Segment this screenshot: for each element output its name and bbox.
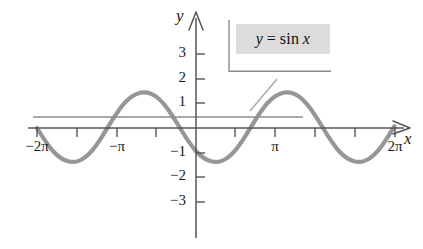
plot-canvas: [0, 0, 423, 249]
x-tick-marks: [37, 128, 395, 137]
equation-lhs: y: [256, 30, 263, 47]
x-tick-label-2pi: 2π: [375, 138, 415, 155]
y-tick-label-neg3: −3: [155, 192, 186, 209]
x-tick-label-pi: π: [259, 138, 291, 155]
equation-callout-label: y = sin x: [256, 30, 310, 48]
y-tick-label-1: 1: [160, 93, 186, 110]
y-tick-label-2: 2: [160, 69, 186, 86]
x-tick-label-negpi: −π: [97, 138, 137, 155]
y-tick-label-3: 3: [160, 44, 186, 61]
sine-graph-figure: y x 3 2 1 −1 −2 −3 −2π −π π 2π y = sin x: [0, 0, 423, 249]
y-tick-label-neg2: −2: [155, 167, 186, 184]
equation-operator: =: [267, 30, 276, 47]
sine-curve: [37, 92, 395, 162]
equation-variable: x: [303, 30, 310, 47]
y-tick-label-neg1: −1: [155, 143, 186, 160]
equation-callout-box: y = sin x: [236, 24, 330, 54]
y-axis-label: y: [176, 6, 184, 26]
x-tick-label-neg2pi: −2π: [13, 138, 61, 155]
equation-function: sin: [280, 30, 300, 47]
